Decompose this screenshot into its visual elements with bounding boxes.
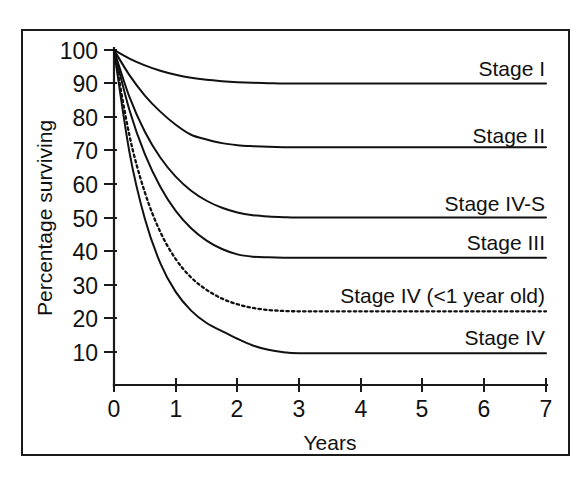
y-tick-label-10: 10 (72, 340, 98, 366)
curve-stage-iii (114, 50, 546, 258)
series-label-stage-iv-s: Stage IV-S (445, 192, 545, 215)
x-axis-tick-labels: 0 1 2 3 4 5 6 7 (108, 396, 553, 422)
x-tick-label-5: 5 (416, 396, 429, 422)
x-tick-label-1: 1 (170, 396, 183, 422)
x-axis-title: Years (304, 431, 357, 454)
x-axis-ticks (114, 375, 546, 392)
y-tick-label-50: 50 (72, 206, 98, 232)
series-label-stage-i: Stage I (478, 57, 545, 80)
y-tick-label-80: 80 (72, 105, 98, 131)
x-tick-label-0: 0 (108, 396, 121, 422)
series-label-stage-iv-under-1-year: Stage IV (<1 year old) (340, 284, 545, 307)
x-tick-label-7: 7 (540, 396, 553, 422)
survival-plot: 100 90 80 70 60 50 40 30 20 10 0 1 2 (0, 0, 580, 477)
y-tick-label-60: 60 (72, 172, 98, 198)
x-tick-label-6: 6 (478, 396, 491, 422)
y-axis-tick-labels: 100 90 80 70 60 50 40 30 20 10 (60, 38, 98, 366)
series-label-stage-ii: Stage II (473, 124, 545, 147)
y-tick-label-40: 40 (72, 239, 98, 265)
survival-curve-figure: 100 90 80 70 60 50 40 30 20 10 0 1 2 (0, 0, 580, 477)
y-tick-label-20: 20 (72, 306, 98, 332)
y-tick-label-90: 90 (72, 71, 98, 97)
series-labels-group: Stage I Stage II Stage IV-S Stage III St… (340, 57, 545, 349)
x-tick-label-2: 2 (231, 396, 244, 422)
series-label-stage-iv: Stage IV (464, 326, 545, 349)
series-label-stage-iii: Stage III (467, 231, 545, 254)
y-tick-label-100: 100 (60, 38, 98, 64)
x-tick-label-4: 4 (355, 396, 368, 422)
y-tick-label-70: 70 (72, 138, 98, 164)
y-axis-title: Percentage surviving (33, 120, 56, 316)
y-tick-label-30: 30 (72, 273, 98, 299)
x-tick-label-3: 3 (293, 396, 306, 422)
